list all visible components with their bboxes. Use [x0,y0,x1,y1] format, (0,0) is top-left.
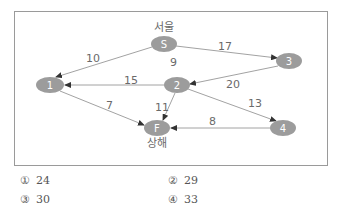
weight-3-2: 20 [226,78,240,91]
weight-2-4: 13 [248,97,262,110]
option-1-value: 24 [36,174,50,187]
node-2-label: 2 [174,80,180,91]
weight-1-f: 7 [106,99,113,112]
node-3-label: 3 [286,56,292,67]
option-3-mark: ③ [20,193,30,206]
weight-2-1: 15 [124,74,138,87]
edge-s-to-1 [56,47,152,77]
city-label-shanghai: 상해 [147,136,167,150]
node-f-label: F [154,123,160,134]
option-1[interactable]: ①24 [20,174,50,187]
network-diagram: 10 17 20 15 11 13 8 7 9 S 3 1 2 F 4 서울 상… [0,0,338,170]
weight-s-3: 17 [218,40,232,53]
option-4[interactable]: ④33 [168,193,198,206]
weight-extra-9: 9 [170,56,177,69]
edge-2-to-4 [188,89,276,121]
node-1: 1 [36,77,64,93]
option-4-mark: ④ [168,193,178,206]
node-4-label: 4 [280,123,286,134]
option-2-value: 29 [184,174,198,187]
node-f: F [144,120,170,136]
option-2[interactable]: ②29 [168,174,198,187]
node-1-label: 1 [47,80,53,91]
city-label-seoul: 서울 [154,21,174,34]
weight-2-f: 11 [155,101,169,114]
node-3: 3 [276,53,302,69]
node-s-label: S [161,39,167,50]
option-4-value: 33 [184,193,198,206]
node-s: S [151,36,177,52]
weight-4-f: 8 [209,115,216,128]
weight-s-1: 10 [86,52,100,65]
edge-1-to-f [60,91,144,125]
node-2: 2 [164,77,190,93]
option-3-value: 30 [36,193,50,206]
node-4: 4 [270,120,296,136]
option-1-mark: ① [20,174,30,187]
option-3[interactable]: ③30 [20,193,50,206]
option-2-mark: ② [168,174,178,187]
